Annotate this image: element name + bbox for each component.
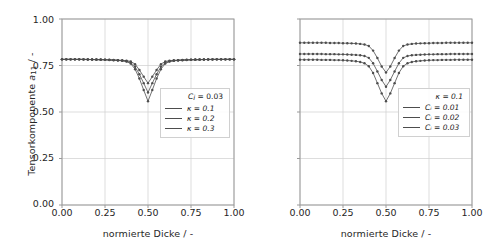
legend-item-label: κ = 0.1 bbox=[187, 104, 214, 113]
legend-item[interactable]: Cᵢ = 0.02 bbox=[403, 112, 464, 122]
legend-title: Ci = 0.03 bbox=[165, 92, 224, 102]
legend-line-swatch-icon bbox=[165, 128, 182, 129]
xtick-label: 0.75 bbox=[409, 207, 449, 218]
legend-left[interactable]: Ci = 0.03 κ = 0.1 κ = 0.2 κ = 0.3 bbox=[160, 88, 230, 138]
xtick-label: 0.25 bbox=[85, 207, 125, 218]
xtick-label: 0.50 bbox=[366, 207, 406, 218]
legend-item[interactable]: Cᵢ = 0.01 bbox=[403, 102, 464, 112]
y-axis-label-symbol: a bbox=[26, 75, 37, 81]
legend-line-swatch-icon bbox=[165, 118, 182, 119]
legend-item[interactable]: Cᵢ = 0.03 bbox=[403, 122, 464, 132]
legend-line-swatch-icon bbox=[403, 117, 420, 118]
xtick-label: 1.00 bbox=[452, 207, 487, 218]
legend-item-label: Cᵢ = 0.02 bbox=[425, 113, 459, 122]
xtick-label: 0.75 bbox=[171, 207, 211, 218]
legend-item[interactable]: κ = 0.1 bbox=[165, 103, 224, 113]
x-axis-label: normierte Dicke / - bbox=[62, 228, 234, 239]
legend-item-label: Cᵢ = 0.01 bbox=[425, 103, 459, 112]
legend-item-label: κ = 0.2 bbox=[187, 114, 214, 123]
legend-item-label: κ = 0.3 bbox=[187, 124, 214, 133]
y-axis-label-subscript: 11 bbox=[30, 66, 38, 75]
chart-panel-left: 1.00 0.75 0.50 0.25 0.00 0.00 0.25 0.50 … bbox=[0, 0, 246, 250]
y-axis-label-suffix: / - bbox=[26, 53, 37, 66]
legend-line-swatch-icon bbox=[165, 108, 182, 109]
legend-item[interactable]: κ = 0.3 bbox=[165, 123, 224, 133]
y-axis-label-prefix: Tensorkomponente bbox=[26, 81, 37, 176]
x-axis-label: normierte Dicke / - bbox=[300, 228, 472, 239]
y-axis-label: Tensorkomponente a11 / - bbox=[26, 19, 38, 209]
legend-item-label: Cᵢ = 0.03 bbox=[425, 123, 459, 132]
legend-line-swatch-icon bbox=[403, 127, 420, 128]
legend-title: κ = 0.1 bbox=[403, 92, 464, 101]
legend-title-rest: = 0.03 bbox=[195, 92, 223, 101]
legend-item[interactable]: κ = 0.2 bbox=[165, 113, 224, 123]
xtick-label: 0.50 bbox=[128, 207, 168, 218]
xtick-label: 0.25 bbox=[323, 207, 363, 218]
legend-right[interactable]: κ = 0.1 Cᵢ = 0.01 Cᵢ = 0.02 Cᵢ = 0.03 bbox=[398, 88, 470, 137]
xtick-label: 0.00 bbox=[42, 207, 82, 218]
legend-line-swatch-icon bbox=[403, 107, 420, 108]
chart-panel-right: 0.00 0.25 0.50 0.75 1.00 normierte Dicke… bbox=[246, 0, 481, 250]
xtick-label: 0.00 bbox=[280, 207, 320, 218]
